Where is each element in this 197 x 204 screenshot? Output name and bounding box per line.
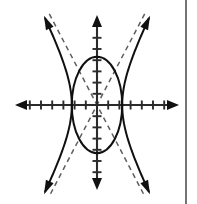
figure-canvas xyxy=(0,0,197,204)
conics-figure xyxy=(0,0,197,204)
